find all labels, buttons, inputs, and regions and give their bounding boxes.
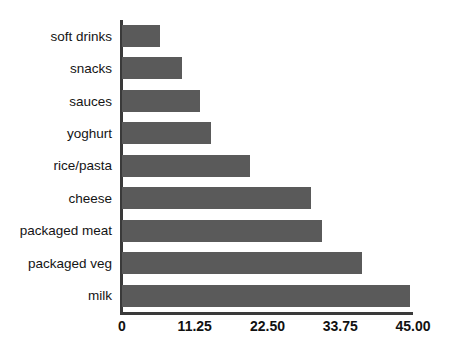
bar-chart: soft drinkssnackssaucesyoghurtrice/pasta…: [0, 0, 450, 346]
category-label-column: soft drinkssnackssaucesyoghurtrice/pasta…: [0, 20, 112, 312]
bar-row: [122, 20, 413, 52]
bar-row: [122, 182, 413, 214]
bar-row: [122, 52, 413, 84]
plot-area: [122, 20, 413, 312]
bar-row: [122, 85, 413, 117]
bar-milk: [122, 285, 410, 307]
category-label: packaged veg: [0, 247, 112, 279]
x-tick-label: 11.25: [178, 318, 212, 334]
x-tick-label: 45.00: [395, 318, 430, 334]
category-label: yoghurt: [0, 117, 112, 149]
bar-packaged-veg: [122, 252, 362, 274]
category-label: sauces: [0, 85, 112, 117]
x-axis-line: [120, 312, 413, 315]
category-label: snacks: [0, 52, 112, 84]
category-label: milk: [0, 280, 112, 312]
bar-rice-pasta: [122, 155, 250, 177]
category-label: soft drinks: [0, 20, 112, 52]
bar-row: [122, 280, 413, 312]
bar-snacks: [122, 57, 182, 79]
bar-sauces: [122, 90, 200, 112]
category-label: cheese: [0, 182, 112, 214]
bar-row: [122, 150, 413, 182]
x-tick-label: 33.75: [323, 318, 358, 334]
bar-yoghurt: [122, 122, 211, 144]
bar-soft-drinks: [122, 25, 160, 47]
bar-packaged-meat: [122, 220, 322, 242]
category-label: packaged meat: [0, 215, 112, 247]
x-tick-label: 0: [118, 318, 126, 334]
category-label: rice/pasta: [0, 150, 112, 182]
bar-cheese: [122, 187, 311, 209]
x-tick-label: 22.50: [250, 318, 285, 334]
bar-row: [122, 247, 413, 279]
bar-row: [122, 215, 413, 247]
bar-row: [122, 117, 413, 149]
